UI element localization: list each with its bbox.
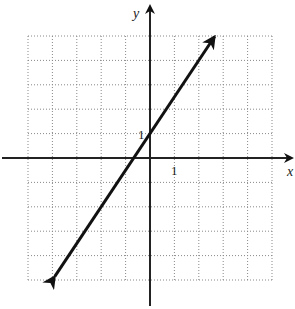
x-axis-label: x [286,164,294,179]
y-axis-label: y [131,6,140,21]
plotted-line [55,36,215,276]
y-tick-label: 1 [138,127,145,142]
coordinate-plane: x y 1 1 [0,0,295,309]
x-tick-label: 1 [171,163,178,178]
